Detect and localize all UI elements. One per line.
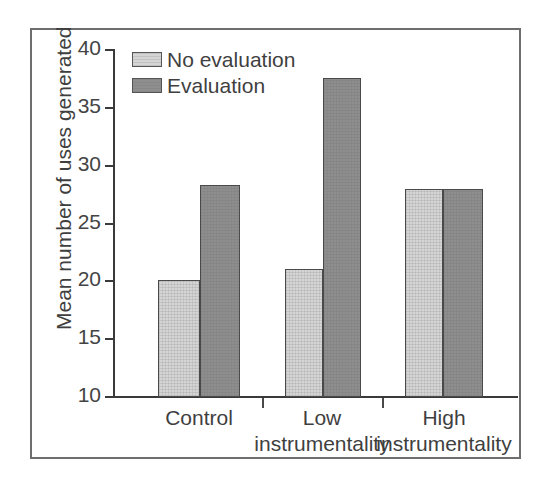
figure-root: 10152025303540 Mean number of uses gener… bbox=[0, 0, 548, 486]
legend-item-no-evaluation: No evaluation bbox=[132, 46, 295, 72]
x-label-high: High bbox=[354, 406, 534, 430]
legend-item-evaluation: Evaluation bbox=[132, 72, 295, 98]
y-axis-title: Mean number of uses generated bbox=[52, 30, 76, 330]
plot-area bbox=[113, 50, 518, 397]
chart-legend: No evaluation Evaluation bbox=[132, 46, 295, 98]
bar-evaluation-2 bbox=[443, 189, 483, 397]
bar-no-evaluation-0 bbox=[158, 280, 200, 397]
legend-label-no-evaluation: No evaluation bbox=[167, 49, 295, 70]
bar-evaluation-1 bbox=[323, 78, 361, 397]
legend-swatch-evaluation bbox=[132, 78, 162, 93]
y-tick-label: 10 bbox=[55, 383, 101, 407]
x-label-high-line2: instrumentality bbox=[354, 432, 534, 456]
legend-label-evaluation: Evaluation bbox=[167, 75, 265, 96]
legend-swatch-no-evaluation bbox=[132, 52, 162, 67]
bar-no-evaluation-2 bbox=[405, 189, 443, 397]
bar-no-evaluation-1 bbox=[285, 269, 323, 397]
bar-evaluation-0 bbox=[200, 185, 240, 397]
